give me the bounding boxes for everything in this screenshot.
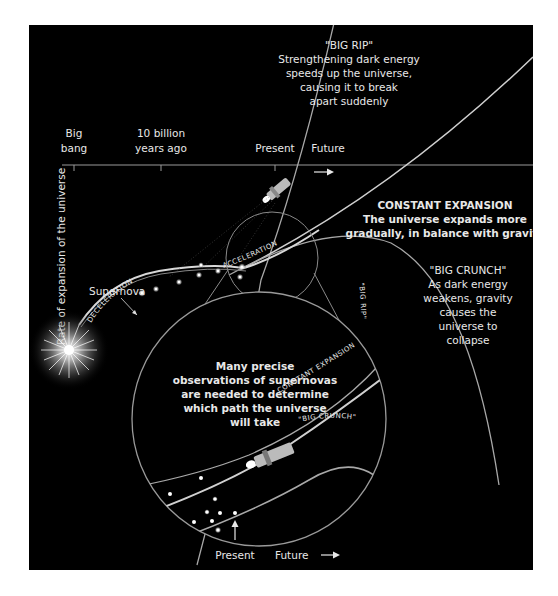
tick-label-big-bang-2: bang: [61, 142, 87, 154]
svg-text:weakens, gravity: weakens, gravity: [423, 292, 512, 304]
inset-future-label: Future: [275, 549, 308, 561]
inset-caption-line-2: observations of supernovas: [173, 374, 337, 386]
expansion-diagram: Big bang 10 billion years ago Present Fu…: [29, 25, 533, 570]
inset-caption-line-3: are needed to determine: [181, 388, 329, 400]
svg-text:universe to: universe to: [438, 320, 497, 332]
inset-future-arrow-icon: [321, 552, 340, 559]
constant-expansion-description: CONSTANT EXPANSION The universe expands …: [346, 199, 533, 239]
inset-caption-line-5: will take: [230, 416, 280, 428]
svg-text:CONSTANT EXPANSION: CONSTANT EXPANSION: [377, 199, 512, 211]
big-rip-description: "BIG RIP" Strengthening dark energy spee…: [278, 39, 420, 107]
svg-text:causing it to break: causing it to break: [300, 81, 399, 93]
big-bang-glow-icon: [29, 310, 109, 390]
svg-text:Strengthening dark energy: Strengthening dark energy: [278, 53, 420, 65]
svg-text:"BIG CRUNCH": "BIG CRUNCH": [430, 264, 507, 276]
svg-text:The universe expands more: The universe expands more: [363, 213, 527, 225]
svg-text:apart suddenly: apart suddenly: [309, 95, 388, 107]
big-crunch-description: "BIG CRUNCH" As dark energy weakens, gra…: [423, 264, 512, 346]
inset-caption-line-4: which path the universe: [183, 402, 326, 414]
svg-text:causes the: causes the: [440, 306, 497, 318]
supernova-pointer-arrow-icon: [121, 298, 137, 315]
svg-text:As dark energy: As dark energy: [428, 278, 507, 290]
tick-label-present: Present: [255, 142, 294, 154]
tick-label-10by-2: years ago: [135, 142, 187, 154]
svg-text:speeds up the universe,: speeds up the universe,: [286, 67, 412, 79]
svg-text:collapse: collapse: [446, 334, 489, 346]
tick-label-big-bang-1: Big: [66, 127, 83, 139]
svg-text:gradually, in balance with gra: gradually, in balance with gravity: [346, 227, 533, 239]
inset-caption-line-1: Many precise: [216, 360, 295, 372]
future-arrow-icon: [314, 169, 334, 176]
telescope-icon: [259, 176, 293, 207]
inset-big-rip-label: "BIG RIP": [357, 282, 367, 319]
diagram-panel: Big bang 10 billion years ago Present Fu…: [29, 25, 533, 570]
tick-label-future: Future: [311, 142, 344, 154]
tick-label-10by-1: 10 billion: [137, 127, 185, 139]
svg-text:"BIG RIP": "BIG RIP": [325, 39, 373, 51]
telescope-beams: [169, 197, 275, 277]
inset-present-label: Present: [215, 549, 254, 561]
